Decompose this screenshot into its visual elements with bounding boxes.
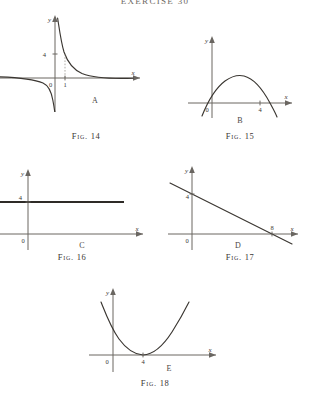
figure-15: 0 4 x y B (180, 28, 305, 118)
figure-17: 4 0 8 x y D (168, 158, 310, 250)
parabola-up-curve (101, 302, 189, 355)
fig-17-x-axis-label: x (289, 225, 294, 233)
fig-16-x-axis-label: x (134, 225, 139, 233)
fig-15-y-axis-label: y (204, 37, 209, 45)
fig-15-caption-prefix: Fig. (226, 131, 242, 141)
y-axis-arrowhead (25, 169, 31, 176)
parabola-down-curve (202, 75, 277, 117)
fig-14-caption: Fig. 14 (36, 131, 136, 141)
fig-15-caption: Fig. 15 (190, 131, 290, 141)
fig-14-caption-prefix: Fig. (72, 131, 88, 141)
page-header: EXERCISE 30 (0, 0, 310, 6)
hyperbola-branch-positive (58, 18, 133, 78)
fig-16-origin-label: 0 (21, 237, 24, 244)
fig-16-y-axis-label: y (20, 170, 25, 178)
fig-16-plot: 4 0 x y (0, 158, 155, 250)
fig-17-caption: Fig. 17 (190, 252, 290, 262)
fig-16-caption-number: 16 (77, 252, 87, 262)
fig-14-caption-number: 14 (91, 131, 101, 141)
fig-15-xtick-label: 4 (258, 106, 262, 113)
fig-15-plot: 0 4 x y (180, 28, 305, 118)
fig-17-xtick-label: 8 (270, 224, 273, 231)
x-axis-arrowhead (285, 100, 292, 106)
fig-18-origin-label: 0 (105, 358, 108, 365)
fig-16-caption: Fig. 16 (22, 252, 122, 262)
fig-17-caption-prefix: Fig. (226, 252, 242, 262)
fig-15-x-axis-label: x (283, 93, 288, 101)
y-axis-arrowhead (209, 36, 215, 43)
figure-16: 4 0 x y C (0, 158, 155, 250)
fig-17-plot: 4 0 8 x y (168, 158, 310, 250)
fig-15-panel-letter: B (230, 116, 250, 125)
fig-14-plot: 4 0 1 x y (0, 12, 155, 112)
fig-17-y-axis-label: y (184, 167, 189, 175)
fig-18-caption-prefix: Fig. (141, 378, 157, 388)
fig-17-origin-label: 0 (185, 237, 188, 244)
fig-17-ytick-label: 4 (186, 193, 190, 200)
fig-15-caption-number: 15 (245, 131, 255, 141)
y-axis-arrowhead (52, 15, 58, 22)
fig-17-panel-letter: D (228, 241, 248, 250)
fig-16-caption-prefix: Fig. (58, 252, 74, 262)
hyperbola-branch-negative (0, 77, 55, 112)
fig-16-panel-letter: C (72, 241, 92, 250)
fig-14-xtick-label: 1 (63, 81, 66, 88)
fig-16-ytick-label: 4 (19, 194, 23, 201)
y-axis-arrowhead (110, 288, 116, 295)
fig-14-x-axis-label: x (130, 69, 135, 77)
fig-18-caption: Fig. 18 (105, 378, 205, 388)
fig-14-panel-letter: A (85, 96, 105, 105)
figure-18: 0 4 x y E (85, 280, 225, 372)
fig-14-origin-label: 0 (49, 81, 52, 88)
fig-15-origin-label: 0 (205, 106, 208, 113)
fig-14-y-axis-label: y (47, 16, 52, 24)
fig-18-x-axis-label: x (207, 346, 212, 354)
fig-14-ytick-label: 4 (43, 51, 47, 58)
textbook-page: EXERCISE 30 4 0 1 x y A Fig (0, 0, 310, 398)
fig-18-caption-number: 18 (160, 378, 170, 388)
fig-18-xtick-label: 4 (141, 358, 145, 365)
fig-17-caption-number: 17 (245, 252, 255, 262)
fig-18-y-axis-label: y (105, 289, 110, 297)
y-axis-arrowhead (189, 166, 195, 173)
fig-18-panel-letter: E (159, 364, 179, 373)
fig-18-plot: 0 4 x y (85, 280, 225, 372)
figure-14: 4 0 1 x y A (0, 12, 155, 112)
